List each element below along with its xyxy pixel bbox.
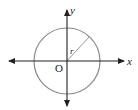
origin-label: O (55, 62, 63, 74)
y-axis-label: y (69, 4, 75, 16)
radius-label: r (70, 46, 74, 56)
x-axis-label: x (126, 55, 132, 67)
circle-diagram: x y O r (0, 0, 138, 110)
